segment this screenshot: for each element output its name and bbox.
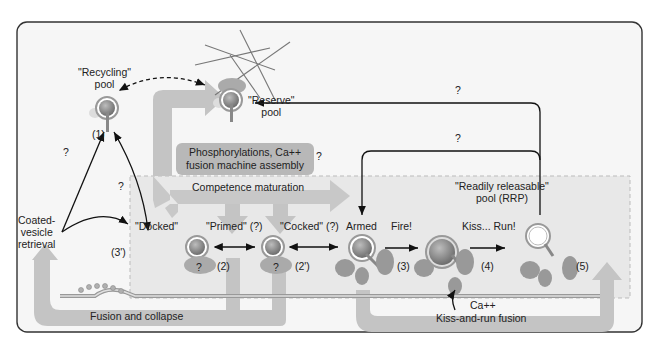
phosphorylation-question: ? bbox=[316, 150, 322, 162]
step-5-label: (5) bbox=[576, 260, 589, 272]
primed-protein-question: ? bbox=[273, 261, 279, 273]
step-3-label: (3) bbox=[397, 260, 410, 272]
synaptic-vesicle-cycle-diagram: Phosphorylations, Ca++ fusion machine as… bbox=[0, 0, 650, 347]
coated-line1: Coated- bbox=[18, 214, 55, 226]
step-3prime-label: (3') bbox=[111, 246, 126, 258]
fire-label: Fire! bbox=[391, 220, 412, 232]
step-1-label: (1) bbox=[92, 128, 105, 140]
cocked-label: "Cocked" (?) bbox=[280, 220, 339, 232]
reserve-line1: "Reserve" bbox=[248, 94, 295, 106]
step-2prime-label: (2') bbox=[295, 260, 310, 272]
docked-question: ? bbox=[118, 180, 124, 192]
recycling-pool-label: "Recycling" pool bbox=[78, 66, 131, 90]
phosphorylation-line1: Phosphorylations, Ca++ bbox=[180, 146, 310, 159]
reserve-pool-label: "Reserve" pool bbox=[248, 94, 295, 118]
rrp-label: "Readily releasable" pool (RRP) bbox=[455, 180, 549, 204]
recycling-line2: pool bbox=[78, 78, 131, 90]
step-4-label: (4) bbox=[481, 260, 494, 272]
rrp-line2: pool (RRP) bbox=[455, 192, 549, 204]
coated-vesicle-label: Coated- vesicle retrieval bbox=[18, 214, 55, 250]
kiss-run-label: Kiss... Run! bbox=[462, 220, 516, 232]
docked-protein-question: ? bbox=[196, 261, 202, 273]
reserve-return-question: ? bbox=[455, 84, 461, 96]
phosphorylation-label: Phosphorylations, Ca++ fusion machine as… bbox=[180, 146, 310, 172]
phosphorylation-line2: fusion machine assembly bbox=[180, 159, 310, 172]
recycling-line1: "Recycling" bbox=[78, 66, 131, 78]
primed-label: "Primed" (?) bbox=[206, 220, 262, 232]
recycling-question: ? bbox=[63, 146, 69, 158]
rrp-return-question: ? bbox=[455, 132, 461, 144]
coated-line2: vesicle bbox=[18, 226, 55, 238]
fusion-collapse-label: Fusion and collapse bbox=[90, 310, 183, 322]
reserve-line2: pool bbox=[248, 106, 295, 118]
rrp-line1: "Readily releasable" bbox=[455, 180, 549, 192]
diagram-graphics bbox=[0, 0, 650, 347]
kiss-and-run-label: Kiss-and-run fusion bbox=[436, 312, 526, 324]
armed-label: Armed bbox=[346, 220, 377, 232]
step-2-label: (2) bbox=[217, 260, 230, 272]
coated-line3: retrieval bbox=[18, 238, 55, 250]
calcium-label: Ca++ bbox=[470, 299, 496, 311]
competence-label: Competence maturation bbox=[192, 181, 304, 193]
docked-label: "Docked" bbox=[135, 220, 178, 232]
